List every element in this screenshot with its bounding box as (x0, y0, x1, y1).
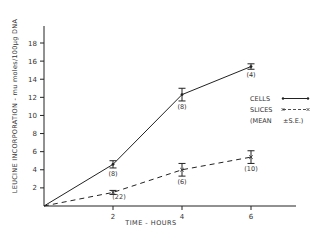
data-point (250, 65, 253, 68)
n-label: (8) (177, 103, 186, 111)
x-tick-label: 2 (111, 213, 115, 221)
line-chart: 24681012141618246TIME - HOURSLEUCINE INC… (0, 0, 320, 238)
n-label: (6) (177, 178, 186, 186)
y-tick-label: 6 (33, 148, 38, 156)
y-tick-label: 18 (28, 40, 37, 48)
y-tick-label: 14 (28, 76, 37, 84)
x-axis-label: TIME - HOURS (124, 219, 176, 227)
series-layer: (8)(8)(4)(22)(6)(10) (44, 64, 258, 206)
y-tick-label: 2 (33, 184, 37, 192)
x-tick-label: 4 (180, 213, 185, 221)
y-tick-label: 12 (28, 94, 37, 102)
legend-label: CELLS (250, 95, 270, 103)
legend-marker (307, 97, 309, 99)
legend-marker (307, 108, 310, 111)
y-tick-label: 16 (28, 58, 37, 66)
n-label: (8) (108, 170, 117, 178)
legend-se-label: ±S.E.) (283, 117, 303, 125)
data-point (181, 93, 184, 96)
series-line-cells (44, 67, 251, 206)
legend-label: SLICES (250, 106, 272, 114)
n-label: (22) (112, 193, 125, 201)
n-label: (10) (244, 165, 257, 173)
y-axis-label: LEUCINE INCORPORATION - mu moles/100µg D… (11, 19, 19, 194)
y-tick-label: 10 (28, 112, 37, 120)
y-tick-label: 4 (33, 166, 38, 174)
y-tick-label: 8 (33, 130, 37, 138)
x-tick-label: 6 (249, 213, 254, 221)
data-point (112, 163, 115, 166)
legend-label: (MEAN (250, 117, 272, 125)
legend: CELLSSLICES(MEAN±S.E.) (250, 95, 310, 125)
series-line-slices (44, 157, 251, 206)
n-label: (4) (246, 71, 255, 79)
legend-marker (282, 97, 284, 99)
